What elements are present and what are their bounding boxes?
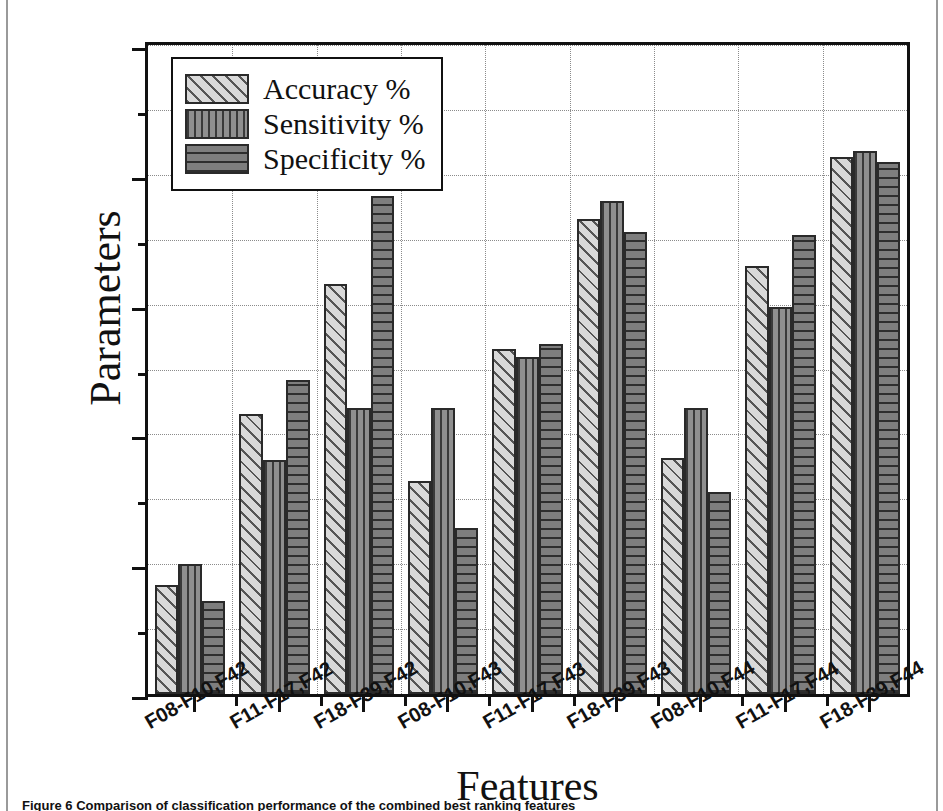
y-tick-minor bbox=[138, 632, 148, 635]
gridline-horizontal bbox=[148, 45, 907, 46]
y-tick-major bbox=[132, 697, 148, 700]
bar-sensitivity bbox=[853, 151, 877, 694]
plot-frame: Accuracy %Sensitivity %Specificity % 758… bbox=[145, 42, 910, 697]
x-tick-minor bbox=[320, 697, 323, 706]
bar-sensitivity bbox=[263, 460, 287, 694]
bar-accuracy bbox=[492, 349, 516, 694]
bar-accuracy bbox=[830, 157, 854, 694]
bar-sensitivity bbox=[600, 201, 624, 694]
bar-specificity bbox=[877, 162, 901, 694]
bar-accuracy bbox=[745, 266, 769, 694]
y-tick-minor bbox=[138, 502, 148, 505]
bar-specificity bbox=[708, 492, 732, 694]
x-tick-minor bbox=[404, 697, 407, 706]
y-tick-major bbox=[132, 48, 148, 51]
y-tick-minor bbox=[138, 113, 148, 116]
x-tick-minor bbox=[235, 697, 238, 706]
figure-caption: Figure 6 Comparison of classification pe… bbox=[22, 797, 922, 811]
bar-sensitivity bbox=[431, 408, 455, 694]
bar-specificity bbox=[792, 235, 816, 694]
gridline-vertical bbox=[570, 45, 571, 694]
bar-specificity bbox=[539, 344, 563, 694]
chart-legend: Accuracy %Sensitivity %Specificity % bbox=[171, 57, 443, 191]
x-tick-minor bbox=[573, 697, 576, 706]
legend-swatch-sensitivity bbox=[185, 109, 249, 139]
bar-accuracy bbox=[155, 585, 179, 694]
bar-sensitivity bbox=[178, 564, 202, 694]
bar-sensitivity bbox=[347, 408, 371, 694]
legend-item: Specificity % bbox=[185, 144, 425, 174]
y-tick-major bbox=[132, 178, 148, 181]
gridline-vertical bbox=[738, 45, 739, 694]
x-tick-minor bbox=[488, 697, 491, 706]
legend-label: Sensitivity % bbox=[263, 109, 424, 139]
bar-accuracy bbox=[324, 284, 348, 694]
gridline-vertical bbox=[485, 45, 486, 694]
figure-bar-chart: Parameters Features Accuracy %Sensitivit… bbox=[0, 0, 943, 811]
y-tick-major bbox=[132, 567, 148, 570]
y-tick-major bbox=[132, 437, 148, 440]
y-tick-major bbox=[132, 308, 148, 311]
legend-swatch-specificity bbox=[185, 144, 249, 174]
bar-accuracy bbox=[577, 219, 601, 694]
legend-label: Specificity % bbox=[263, 144, 425, 174]
legend-item: Sensitivity % bbox=[185, 109, 425, 139]
y-axis-title: Parameters bbox=[84, 148, 128, 468]
bar-sensitivity bbox=[769, 307, 793, 694]
gridline-vertical bbox=[823, 45, 824, 694]
y-tick-minor bbox=[138, 373, 148, 376]
legend-item: Accuracy % bbox=[185, 74, 425, 104]
gridline-vertical bbox=[654, 45, 655, 694]
bar-sensitivity bbox=[516, 357, 540, 694]
y-tick-minor bbox=[138, 243, 148, 246]
x-tick-minor bbox=[657, 697, 660, 706]
bar-specificity bbox=[371, 196, 395, 694]
x-tick-minor bbox=[826, 697, 829, 706]
bar-specificity bbox=[624, 232, 648, 694]
x-tick-minor bbox=[741, 697, 744, 706]
bar-sensitivity bbox=[684, 408, 708, 694]
legend-label: Accuracy % bbox=[263, 74, 410, 104]
bar-accuracy bbox=[239, 414, 263, 694]
legend-swatch-accuracy bbox=[185, 74, 249, 104]
bar-specificity bbox=[286, 380, 310, 694]
